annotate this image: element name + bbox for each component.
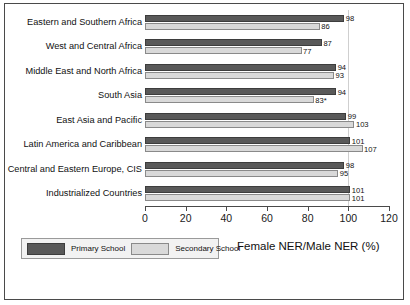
category-label: Industrialized Countries	[46, 189, 142, 198]
bar-group: West and Central Africa8777	[145, 39, 389, 54]
bar-secondary	[145, 72, 334, 79]
bar-secondary	[145, 47, 302, 54]
x-tick-label-20: 20	[180, 212, 192, 224]
bar-value-label: 101	[352, 195, 365, 203]
bar-primary	[145, 113, 346, 120]
bar-group: Eastern and Southern Africa9886	[145, 15, 389, 30]
category-label: South Asia	[98, 91, 142, 100]
bar-value-label: 98	[346, 15, 354, 23]
x-tick-label-100: 100	[340, 212, 358, 224]
bar-primary	[145, 15, 344, 22]
x-tick-40	[226, 206, 227, 211]
bar-secondary	[145, 23, 320, 30]
bar-value-label: 77	[303, 48, 311, 56]
chart-legend: Primary School Secondary School	[21, 238, 219, 259]
bar-value-label: 103	[356, 121, 369, 129]
legend-swatch-secondary-school	[131, 243, 169, 255]
bar-secondary	[145, 96, 314, 103]
x-tick-label-40: 40	[220, 212, 232, 224]
bar-secondary	[145, 145, 363, 152]
x-tick-60	[267, 206, 268, 211]
bar-secondary	[145, 121, 354, 128]
bar-value-label: 95	[340, 170, 348, 178]
plot-area: Eastern and Southern Africa9886West and …	[145, 10, 389, 206]
category-label: Eastern and Southern Africa	[27, 18, 142, 27]
bar-value-label: 86	[321, 23, 329, 31]
bar-value-label: 101	[352, 138, 365, 146]
bar-value-label: 94	[338, 89, 346, 97]
bar-value-label: 83*	[315, 97, 326, 105]
x-tick-label-0: 0	[142, 212, 148, 224]
category-label: Central and Eastern Europe, CIS	[8, 165, 142, 174]
x-tick-0	[145, 206, 146, 211]
x-tick-label-60: 60	[261, 212, 273, 224]
bar-value-label: 87	[323, 40, 331, 48]
bar-group: East Asia and Pacific99103	[145, 113, 389, 128]
legend-label-secondary-school: Secondary School	[175, 244, 240, 253]
bar-primary	[145, 39, 322, 46]
bar-group: Middle East and North Africa9493	[145, 64, 389, 79]
x-tick-label-80: 80	[302, 212, 314, 224]
bar-value-label: 93	[336, 72, 344, 80]
bar-secondary	[145, 170, 338, 177]
bar-value-label: 99	[348, 113, 356, 121]
bar-primary	[145, 162, 344, 169]
x-tick-80	[308, 206, 309, 211]
bar-group: Central and Eastern Europe, CIS9895	[145, 162, 389, 177]
x-tick-120	[389, 206, 390, 211]
x-tick-label-120: 120	[380, 212, 398, 224]
legend-swatch-primary-school	[27, 243, 65, 255]
category-label: East Asia and Pacific	[56, 116, 142, 125]
bar-primary	[145, 137, 350, 144]
bar-group: South Asia9483*	[145, 88, 389, 103]
bar-group: Industrialized Countries101101	[145, 186, 389, 201]
category-label: Latin America and Caribbean	[24, 140, 143, 149]
bar-value-label: 107	[364, 146, 377, 154]
chart-frame: Eastern and Southern Africa9886West and …	[4, 3, 404, 300]
bar-primary	[145, 64, 336, 71]
x-tick-100	[348, 206, 349, 211]
legend-label-primary-school: Primary School	[71, 244, 125, 253]
bar-primary	[145, 186, 350, 193]
x-tick-20	[186, 206, 187, 211]
category-label: West and Central Africa	[46, 42, 142, 51]
bar-group: Latin America and Caribbean101107	[145, 137, 389, 152]
bar-secondary	[145, 194, 350, 201]
bar-primary	[145, 88, 336, 95]
category-label: Middle East and North Africa	[26, 67, 142, 76]
x-axis-title: Female NER/Male NER (%)	[237, 240, 380, 252]
